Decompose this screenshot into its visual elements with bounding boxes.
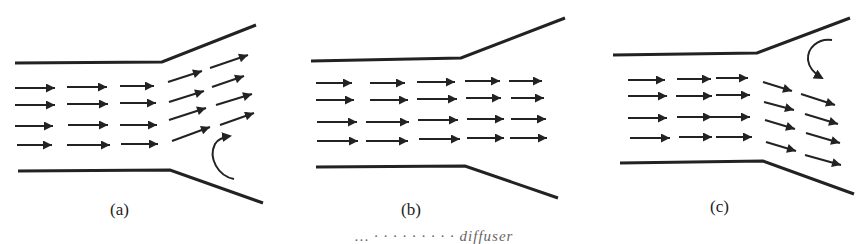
recirculation-arrow xyxy=(213,136,234,179)
panel-c-label: (c) xyxy=(710,197,729,217)
caption-fragment: … · · · · · · · · · diffuser xyxy=(355,228,513,244)
diffuser-lower-wall xyxy=(316,166,558,198)
flow-arrows xyxy=(316,81,547,141)
diffuser-upper-wall xyxy=(311,18,565,61)
diffuser-lower-wall xyxy=(620,161,854,194)
panel-b xyxy=(311,18,565,198)
panel-a xyxy=(15,25,263,203)
diffuser-lower-wall xyxy=(18,170,263,203)
flow-arrows xyxy=(15,55,254,145)
panel-b-label: (b) xyxy=(401,200,421,220)
flow-arrows xyxy=(628,78,841,165)
panel-a-label: (a) xyxy=(110,200,129,220)
diffuser-upper-wall xyxy=(15,25,256,63)
panel-c xyxy=(613,18,854,194)
recirculation-arrow xyxy=(808,40,832,78)
diffuser-flow-diagram xyxy=(0,0,865,244)
diffuser-upper-wall xyxy=(613,18,850,55)
